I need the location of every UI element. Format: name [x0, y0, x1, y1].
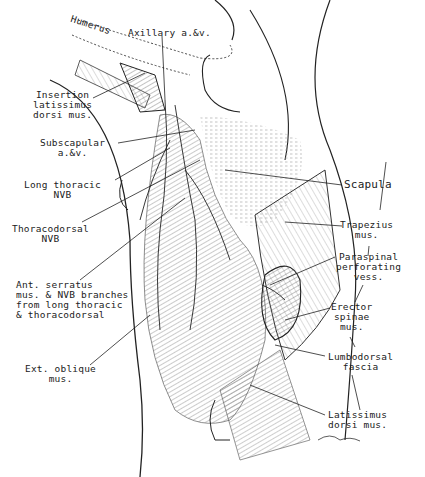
label-scapula: Scapula [344, 180, 392, 190]
label-ext-oblique: Ext. oblique mus. [25, 364, 96, 384]
label-lumbodorsal: Lumbodorsal fascia [328, 352, 393, 372]
label-insertion-latissimus: Insertion latissimus dorsi mus. [33, 90, 92, 120]
anatomical-figure: Humerus Axillary a.&v. Insertion latissi… [0, 0, 425, 477]
label-erector-spinae: Erector spinae mus. [331, 302, 372, 332]
label-trapezius: Trapezius mus. [340, 220, 393, 240]
label-ant-serratus: Ant. serratus mus. & NVB branches from l… [16, 280, 128, 320]
label-latissimus-dorsi: Latissimus dorsi mus. [328, 410, 387, 430]
label-long-thoracic: Long thoracic NVB [24, 180, 101, 200]
label-thoracodorsal: Thoracodorsal NVB [12, 224, 89, 244]
label-subscapular: Subscapular a.&v. [40, 138, 105, 158]
label-axillary: Axillary a.&v. [128, 28, 211, 38]
label-paraspinal: Paraspinal perforating vess. [336, 252, 401, 282]
